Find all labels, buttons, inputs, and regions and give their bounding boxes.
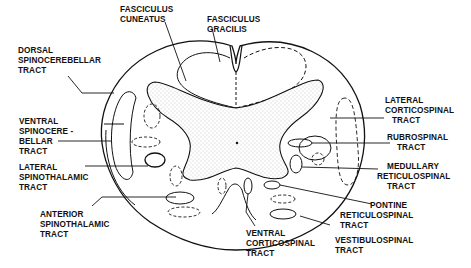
label-medullary-reticulospinal-tract: MEDULLARY RETICULOSPINAL TRACT <box>377 162 450 192</box>
medullary-reticulospinal-tract <box>290 155 302 173</box>
label-ventral-spinocerebellar-tract: VENTRAL SPINOCERE - BELLAR TRACT <box>19 117 73 157</box>
label-anterior-spinothalamic-tract: ANTERIOR SPINOTHALAMIC TRACT <box>40 210 110 240</box>
label-dorsal-spinocerebellar-tract: DORSAL SPINOCEREBELLAR TRACT <box>18 46 101 76</box>
anterior-spinothalamic-tract <box>166 192 194 204</box>
label-lateral-spinothalamic-tract: LATERAL SPINOTHALAMIC TRACT <box>19 163 89 193</box>
ventral-corticospinal-tract <box>244 178 252 194</box>
label-pontine-reticulospinal-tract: PONTINE RETICULOSPINAL TRACT <box>340 201 413 231</box>
central-canal <box>236 142 238 144</box>
grey-matter <box>147 80 323 180</box>
label-fasciculus-cuneatus: FASCICULUS CUNEATUS <box>120 5 173 25</box>
lateral-spinothalamic-tract <box>145 153 165 167</box>
pontine-reticulospinal-tract <box>264 181 280 189</box>
label-ventral-corticospinal-tract: VENTRAL CORTICOSPINAL TRACT <box>246 229 315 259</box>
label-lateral-corticospinal-tract: LATERAL CORTICOSPINAL TRACT <box>385 96 454 126</box>
label-fasciculus-gracilis: FASCICULUS GRACILIS <box>207 15 260 35</box>
vestibulospinal-tract <box>270 209 296 219</box>
label-rubrospinal-tract: RUBROSPINAL TRACT <box>387 133 448 153</box>
label-vestibulospinal-tract: VESTIBULOSPINAL TRACT <box>335 236 413 256</box>
